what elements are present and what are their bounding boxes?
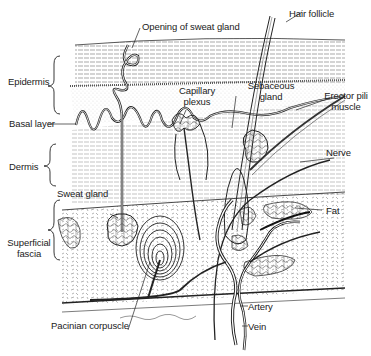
epidermis-brace [48,56,60,114]
label-capillary-plexus: Capillary plexus [177,85,217,107]
label-superficial-fascia-line2: fascia [6,248,52,259]
label-basal-layer: Basal layer [9,118,55,129]
label-vein: Vein [248,321,266,332]
label-superficial-fascia-line1: Superficial [6,237,52,248]
label-sebaceous-gland-line2: gland [246,91,296,102]
label-sebaceous-gland-line1: Sebaceous [246,80,296,91]
label-sebaceous-gland: Sebaceous gland [246,80,296,102]
label-epidermis: Epidermis [8,76,49,87]
skin-diagram [0,0,371,356]
label-hair-follicle: Hair follicle [289,8,334,19]
label-capillary-plexus-line1: Capillary [177,85,217,96]
label-superficial-fascia: Superficial fascia [6,237,52,259]
dermis-brace [44,144,56,186]
label-opening-of-sweat-gland: Opening of sweat gland [142,21,240,32]
label-erector-pili-line2: muscle [318,101,371,112]
label-pacinian-corpuscle: Pacinian corpuscle [51,320,129,331]
label-artery: Artery [248,301,273,312]
label-dermis: Dermis [9,161,38,172]
label-sweat-gland: Sweat gland [57,188,108,199]
label-capillary-plexus-line2: plexus [177,96,217,107]
label-erector-pili-muscle: Erector pili muscle [318,90,371,112]
label-nerve: Nerve [326,147,351,158]
label-fat: Fat [326,205,339,216]
label-erector-pili-line1: Erector pili [318,90,371,101]
